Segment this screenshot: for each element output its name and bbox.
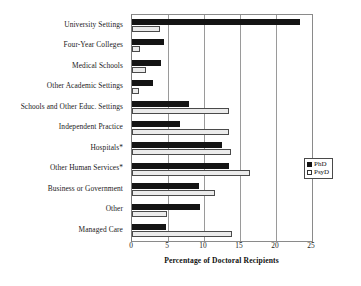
- x-axis-title: Percentage of Doctoral Recipients: [131, 256, 312, 265]
- bar-psyd: [132, 88, 139, 94]
- bars-layer: [132, 15, 312, 241]
- bar-group: [132, 56, 312, 77]
- bar-group: [132, 220, 312, 241]
- bar-group: [132, 97, 312, 118]
- x-axis-tick-labels: 0510152025: [131, 242, 312, 254]
- category-label: Managed Care: [0, 219, 127, 240]
- legend-swatch-icon: [307, 170, 312, 175]
- bar-group: [132, 159, 312, 180]
- bar-group: [132, 138, 312, 159]
- bar-psyd: [132, 67, 146, 73]
- bar-group: [132, 77, 312, 98]
- legend-label: PhD: [314, 161, 326, 168]
- bar-psyd: [132, 26, 160, 32]
- bar-phd: [132, 19, 300, 25]
- category-label: Hospitals*: [0, 137, 127, 158]
- x-tick-label: 15: [235, 242, 242, 249]
- bar-phd: [132, 163, 229, 169]
- category-label: Schools and Other Educ. Settings: [0, 96, 127, 117]
- bar-psyd: [132, 190, 215, 196]
- category-label: Other: [0, 199, 127, 220]
- legend-item-psyd: PsyD: [307, 169, 329, 176]
- legend-item-phd: PhD: [307, 161, 329, 168]
- category-label: Independent Practice: [0, 117, 127, 138]
- legend-swatch-icon: [307, 162, 312, 167]
- bar-psyd: [132, 108, 229, 114]
- x-tick-label: 5: [165, 242, 169, 249]
- bar-group: [132, 179, 312, 200]
- bar-chart-figure: University SettingsFour-Year CollegesMed…: [0, 0, 361, 286]
- chart-legend: PhDPsyD: [304, 158, 333, 179]
- bar-phd: [132, 204, 200, 210]
- x-tick-label: 10: [199, 242, 206, 249]
- x-tick-label: 25: [307, 242, 314, 249]
- bar-psyd: [132, 231, 232, 237]
- bar-phd: [132, 224, 166, 230]
- x-tick-label: 20: [271, 242, 278, 249]
- bar-psyd: [132, 170, 250, 176]
- bar-group: [132, 15, 312, 36]
- bar-phd: [132, 39, 164, 45]
- plot-area: [131, 14, 313, 242]
- category-label: Four-Year Colleges: [0, 35, 127, 56]
- bar-phd: [132, 183, 199, 189]
- bar-psyd: [132, 211, 167, 217]
- category-label: Medical Schools: [0, 55, 127, 76]
- bar-group: [132, 200, 312, 221]
- bar-psyd: [132, 129, 229, 135]
- x-tick-label: 0: [129, 242, 133, 249]
- category-axis: University SettingsFour-Year CollegesMed…: [0, 14, 127, 240]
- bar-phd: [132, 121, 180, 127]
- bar-group: [132, 118, 312, 139]
- bar-psyd: [132, 149, 231, 155]
- legend-label: PsyD: [314, 169, 329, 176]
- category-label: Business or Government: [0, 178, 127, 199]
- bar-phd: [132, 80, 153, 86]
- bar-phd: [132, 142, 222, 148]
- category-label: Other Human Services*: [0, 158, 127, 179]
- bar-group: [132, 36, 312, 57]
- bar-psyd: [132, 46, 140, 52]
- category-label: Other Academic Settings: [0, 76, 127, 97]
- bar-phd: [132, 60, 161, 66]
- category-label: University Settings: [0, 14, 127, 35]
- bar-phd: [132, 101, 189, 107]
